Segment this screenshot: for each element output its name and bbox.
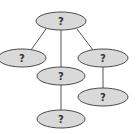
node-bottom: ?: [37, 110, 85, 128]
node-left: ?: [0, 49, 46, 67]
node-right-child: ?: [78, 88, 128, 106]
node-root: ?: [36, 12, 86, 30]
tree-diagram: ? ? ? ? ? ?: [0, 0, 138, 134]
edge-root-right: [77, 29, 93, 50]
node-label: ?: [58, 16, 64, 27]
node-label: ?: [100, 53, 106, 64]
edge-root-left: [31, 29, 46, 50]
node-label: ?: [100, 92, 106, 103]
node-right: ?: [78, 49, 128, 67]
node-label: ?: [19, 53, 25, 64]
node-middle: ?: [37, 67, 85, 85]
node-label: ?: [58, 114, 64, 125]
node-label: ?: [58, 71, 64, 82]
